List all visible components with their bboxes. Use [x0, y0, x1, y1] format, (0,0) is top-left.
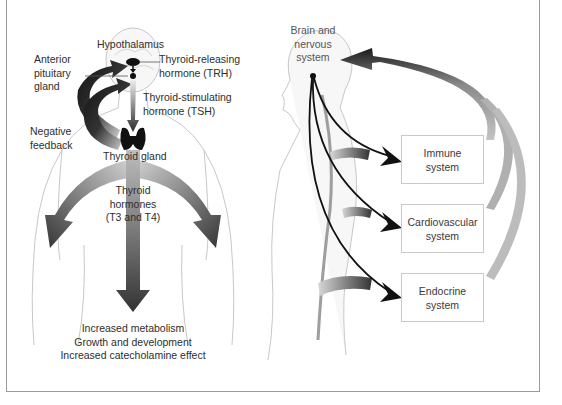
hypothalamus-node — [126, 58, 140, 66]
label-thyroid-hormones: Thyroid hormones (T3 and T4) — [100, 184, 166, 225]
pituitary-node — [130, 73, 136, 79]
arrowhead-cardio — [380, 212, 402, 232]
label-thyroid-gland: Thyroid gland — [103, 150, 167, 164]
label-anterior-pituitary: Anterior pituitary gland — [34, 53, 71, 94]
box-cardiovascular-system: Cardiovascular system — [401, 204, 484, 253]
arrowhead-immune — [380, 146, 402, 166]
arrow-immune-to-brain — [340, 48, 496, 140]
label-effects: Increased metabolism Growth and developm… — [50, 322, 216, 363]
box-immune-system: Immune system — [401, 135, 484, 184]
label-negative-feedback: Negative feedback — [30, 125, 73, 152]
arrowhead-endocrine — [380, 282, 402, 302]
label-hypothalamus: Hypothalamus — [97, 38, 164, 52]
box-endocrine-system: Endocrine system — [401, 273, 484, 322]
label-trh: Thyroid-releasing hormone (TRH) — [159, 53, 240, 80]
label-tsh: Thyroid-stimulating hormone (TSH) — [143, 91, 232, 118]
label-brain-nervous-system: Brain and nervous system — [283, 24, 343, 65]
